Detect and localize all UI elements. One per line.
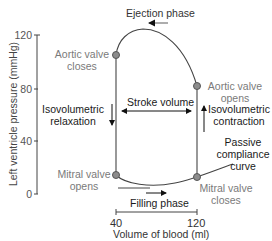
compliance-line-3: curve — [214, 160, 272, 172]
mitral-valve-closes-label: Mitral valve closes — [196, 182, 256, 206]
passive-compliance-label: Passive compliance curve — [214, 136, 272, 172]
relaxation-line-1: Isovolumetric — [38, 103, 108, 115]
mitral-opens-line-2: opens — [54, 180, 114, 192]
isovolumetric-contraction-label: Isovolumetric contraction — [206, 103, 272, 127]
aortic-closes-line-1: Aortic valve — [52, 48, 112, 60]
isovolumetric-relaxation-label: Isovolumetric relaxation — [38, 103, 108, 127]
mitral-closes-line-2: closes — [196, 194, 256, 206]
dot-aortic-opens — [194, 83, 201, 90]
mitral-valve-opens-label: Mitral valve opens — [54, 168, 114, 192]
filling-phase-label: Filling phase — [130, 197, 189, 209]
x-axis-label: Volume of blood (ml) — [113, 228, 209, 240]
aortic-valve-opens-label: Aortic valve opens — [202, 80, 268, 104]
contraction-line-2: contraction — [206, 115, 272, 127]
dot-mitral-closes — [194, 174, 201, 181]
aortic-opens-line-1: Aortic valve — [202, 80, 268, 92]
stroke-volume-label: Stroke volume — [127, 96, 194, 108]
mitral-closes-line-1: Mitral valve — [196, 182, 256, 194]
aortic-closes-line-2: closes — [52, 60, 112, 72]
x-axis — [116, 209, 197, 215]
ejection-phase-label: Ejection phase — [126, 7, 195, 19]
aortic-opens-line-2: opens — [202, 92, 268, 104]
mitral-opens-line-1: Mitral valve — [54, 168, 114, 180]
dot-aortic-closes — [113, 52, 120, 59]
relaxation-line-2: relaxation — [38, 115, 108, 127]
compliance-line-2: compliance — [214, 148, 272, 160]
y-axis-label: Left ventricle pressure (mmHg) — [7, 34, 19, 194]
contraction-line-1: Isovolumetric — [206, 103, 272, 115]
aortic-valve-closes-label: Aortic valve closes — [52, 48, 112, 72]
compliance-line-1: Passive — [214, 136, 272, 148]
